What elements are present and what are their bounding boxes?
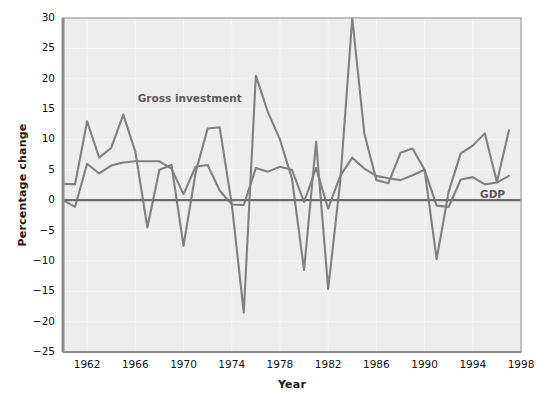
y-tick-label: −25 — [29, 345, 55, 357]
x-tick-label: 1982 — [308, 358, 348, 370]
y-tick-label: 15 — [29, 102, 55, 114]
y-tick-label: 0 — [29, 193, 55, 205]
x-tick-label: 1970 — [164, 358, 204, 370]
x-tick-label: 1974 — [212, 358, 252, 370]
y-tick-label: −15 — [29, 284, 55, 296]
line-chart-plot — [0, 0, 543, 404]
y-tick-label: 5 — [29, 163, 55, 175]
x-tick-label: 1990 — [405, 358, 445, 370]
chart-figure: Percentage change Year −25−20−15−10−5051… — [0, 0, 543, 404]
x-axis-title: Year — [62, 378, 522, 391]
series-label-gross-investment: Gross investment — [138, 92, 242, 104]
x-tick-label: 1998 — [501, 358, 541, 370]
y-tick-label: −20 — [29, 315, 55, 327]
x-tick-label: 1962 — [67, 358, 107, 370]
series-label-gdp: GDP — [480, 188, 505, 200]
x-tick-label: 1994 — [453, 358, 493, 370]
x-tick-label: 1986 — [356, 358, 396, 370]
y-tick-label: 10 — [29, 132, 55, 144]
x-tick-label: 1966 — [115, 358, 155, 370]
y-tick-label: −10 — [29, 254, 55, 266]
y-tick-label: 30 — [29, 11, 55, 23]
x-tick-label: 1978 — [260, 358, 300, 370]
y-tick-label: −5 — [29, 224, 55, 236]
y-tick-label: 25 — [29, 41, 55, 53]
y-axis-title: Percentage change — [16, 18, 29, 352]
y-tick-label: 20 — [29, 72, 55, 84]
